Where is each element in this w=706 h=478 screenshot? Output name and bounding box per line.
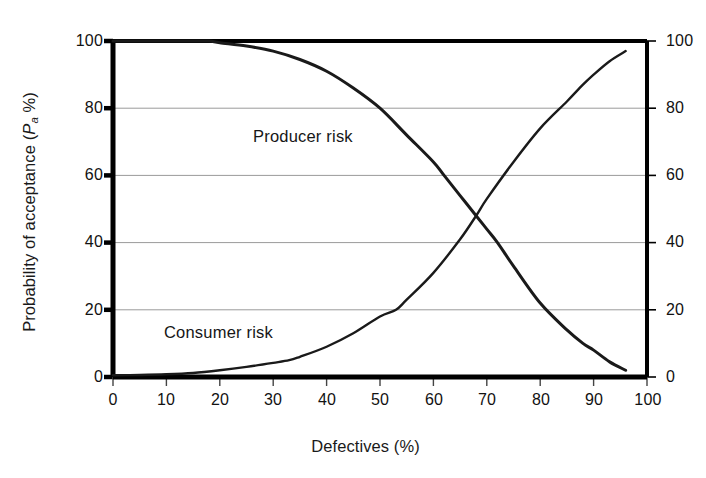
curve-producer-risk (113, 41, 626, 370)
chart-figure: Probability of acceptance (Pa %) Defecti… (0, 0, 706, 478)
plot-frame (113, 41, 647, 377)
plot-area (0, 0, 706, 478)
gridlines (113, 108, 647, 310)
curve-group (113, 41, 626, 375)
